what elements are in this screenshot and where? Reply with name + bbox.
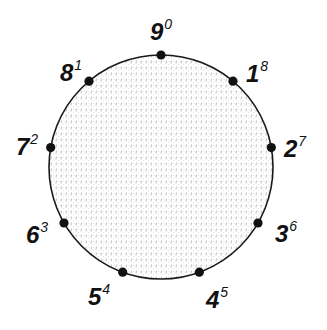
point-label-8: 81 xyxy=(60,61,82,85)
point-label-superscript: 1 xyxy=(74,57,82,73)
point-marker-8 xyxy=(84,77,93,86)
point-label-superscript: 7 xyxy=(298,133,306,149)
point-label-6: 63 xyxy=(26,223,48,247)
point-label-superscript: 3 xyxy=(40,219,48,235)
point-label-9: 90 xyxy=(150,20,172,44)
point-marker-6 xyxy=(59,218,68,227)
point-label-3: 36 xyxy=(275,222,297,246)
point-label-superscript: 4 xyxy=(102,281,110,297)
point-label-superscript: 8 xyxy=(260,58,268,74)
point-label-main: 6 xyxy=(26,221,39,248)
point-label-1: 18 xyxy=(246,62,268,86)
point-marker-7 xyxy=(46,143,55,152)
point-label-superscript: 0 xyxy=(164,16,172,32)
point-label-main: 7 xyxy=(16,133,29,160)
point-label-main: 5 xyxy=(88,283,101,310)
point-label-main: 4 xyxy=(206,286,219,313)
point-marker-3 xyxy=(253,218,262,227)
point-label-2: 27 xyxy=(284,137,306,161)
point-marker-1 xyxy=(228,77,237,86)
point-label-main: 2 xyxy=(284,135,297,162)
main-circle xyxy=(49,55,273,279)
point-marker-4 xyxy=(195,268,204,277)
point-label-superscript: 5 xyxy=(220,284,228,300)
point-label-superscript: 6 xyxy=(289,218,297,234)
point-label-main: 9 xyxy=(150,18,163,45)
point-label-5: 54 xyxy=(88,285,110,309)
point-label-7: 72 xyxy=(16,135,38,159)
point-label-main: 3 xyxy=(275,220,288,247)
circle-diagram xyxy=(0,0,327,330)
point-marker-5 xyxy=(118,268,127,277)
point-label-4: 45 xyxy=(206,288,228,312)
point-marker-9 xyxy=(156,50,165,59)
point-label-main: 1 xyxy=(246,60,259,87)
point-label-superscript: 2 xyxy=(30,131,38,147)
point-label-main: 8 xyxy=(60,59,73,86)
point-marker-2 xyxy=(267,143,276,152)
